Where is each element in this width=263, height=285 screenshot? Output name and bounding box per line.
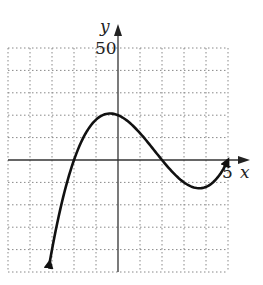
y-axis-label: y	[99, 16, 110, 36]
y-axis-arrow-icon	[114, 24, 122, 36]
graph: y x 50 5	[0, 0, 263, 285]
y-axis	[114, 24, 122, 272]
x-axis-label: x	[240, 162, 250, 182]
x-tick-label: 5	[222, 162, 233, 182]
x-axis	[8, 156, 250, 164]
y-tick-label: 50	[95, 38, 117, 58]
function-curve	[50, 114, 228, 262]
